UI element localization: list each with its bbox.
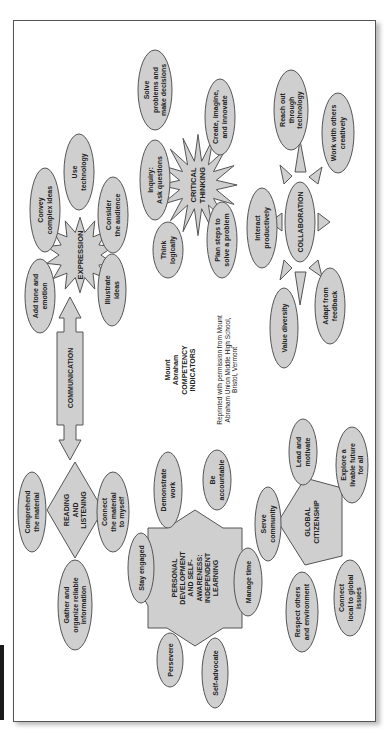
credit-text: Reprinted with permission from MountAbra… (216, 315, 238, 425)
node-think-logically: Thinklogically (153, 222, 183, 278)
node-solve-problems: Solveproblems andmake decisions (138, 50, 172, 130)
node-persevere: Persevere (157, 633, 183, 687)
node-gather-and-organize-label-line: Gather and (63, 587, 70, 624)
sun-ray-up-right (309, 167, 322, 184)
node-lead-and-motivate-label-line: Lead and (295, 437, 302, 468)
node-interact-productively: Interactproductively (247, 188, 277, 268)
sun-ray-down-left (280, 260, 292, 280)
collaboration-hub-label-line: COLLABORATION (297, 192, 304, 253)
critical-thinking-hub-label-line: THINKING (198, 167, 207, 203)
global-citizenship-hub-label-line: GLOBAL (304, 507, 311, 537)
node-connect-the-material-label-line: Connect (101, 497, 108, 526)
title-block-line: Abraham (172, 355, 179, 385)
node-convey-complex-ideas-label-line: Convey (37, 197, 45, 222)
node-create-imagine-innovate-label-line: and innovate (221, 95, 228, 138)
node-adapt-from-feedback-label-line: feedback (331, 291, 338, 321)
node-plan-steps-label-line: Plan steps to (214, 218, 222, 262)
node-interact-productively-label-line: productively (263, 207, 271, 249)
personal-development-hub-label-line: AND SELF- (187, 559, 194, 597)
node-connect-local-to-global-label-line: issues (355, 587, 362, 609)
node-lead-and-motivate: Lead andmotivate (289, 419, 317, 485)
node-serve-community-label-line: community (269, 505, 277, 542)
node-lead-and-motivate-label-line: motivate (304, 438, 311, 467)
node-add-tone-and-emotion: Add tone andemotion (25, 259, 55, 333)
diagram-canvas: COMMUNICATIONEXPRESSIONREADINGANDLISTENI… (0, 0, 389, 738)
node-illustrate-ideas-label-line: ideas (113, 281, 120, 299)
node-explore-livable-future: Explore alivable futurefor all (336, 427, 368, 503)
node-persevere-label: Persevere (167, 643, 174, 677)
node-work-with-others-creatively: Work with otherscreatively (322, 93, 354, 173)
node-illustrate-ideas: Illustrateideas (98, 254, 126, 326)
node-solve-problems-label-line: make decisions (160, 64, 167, 116)
node-create-imagine-innovate: Create, imagine,and innovate (205, 79, 235, 155)
node-manage-time-label-line: Manage time (245, 561, 253, 604)
node-manage-time: Manage time (234, 548, 262, 616)
node-connect-the-material: Connectthe materialto myself (97, 472, 129, 552)
node-value-diversity: Value diversity (270, 288, 298, 368)
node-reach-out-through-technology: Reach outthroughtechnology (274, 70, 308, 150)
node-use-technology: Usetechnology (64, 134, 94, 210)
node-gather-and-organize: Gather andorganize reliableinformation (58, 560, 92, 650)
node-consider-the-audience-label: Considerthe audience (105, 194, 120, 237)
node-serve-community-label-line: Serve (260, 514, 267, 533)
node-plan-steps-label: Plan steps tosolve a problem (214, 213, 230, 266)
communication-hub-label-line: COMMUNICATION (67, 348, 74, 409)
node-respect-others: Respect othersand environment (286, 572, 318, 652)
node-add-tone-and-emotion-label-line: emotion (41, 282, 48, 309)
expression-hub-label: EXPRESSION (76, 231, 85, 280)
node-connect-local-to-global: Connectlocal to globalissues (334, 560, 366, 636)
node-add-tone-and-emotion-label-line: Add tone and (32, 274, 39, 319)
communication-hub-label: COMMUNICATION (67, 348, 74, 409)
node-demonstrate-work-label-line: Demonstrate (160, 469, 167, 512)
node-stay-engaged: Stay engaged (128, 533, 154, 603)
node-demonstrate-work-label-line: work (169, 482, 176, 499)
node-plan-steps: Plan steps tosolve a problem (207, 202, 237, 278)
node-gather-and-organize-label-line: information (80, 586, 87, 625)
node-self-advocate-label: Self-advocate (212, 650, 219, 696)
node-lead-and-motivate-label: Lead andmotivate (295, 437, 310, 468)
node-work-with-others-creatively-label-line: Work with others (330, 105, 337, 162)
node-adapt-from-feedback-label-line: Adapt from (322, 287, 330, 324)
node-explore-livable-future-label-line: livable future (349, 443, 356, 487)
node-inquiry-ask-questions-label-line: Ask questions (156, 156, 164, 204)
node-consider-the-audience-label-line: the audience (114, 194, 121, 237)
node-inquiry-ask-questions-label-line: Inquiry: (147, 167, 155, 193)
expression-hub-label-line: EXPRESSION (76, 231, 85, 280)
node-solve-problems-label-line: problems and (152, 67, 160, 113)
personal-development-hub-label-line: PERSONAL (171, 558, 178, 598)
node-illustrate-ideas-label-line: Illustrate (104, 275, 111, 304)
node-create-imagine-innovate-label-line: Create, imagine, (212, 90, 220, 144)
node-use-technology-label-line: Use (71, 165, 78, 178)
node-comprehend-the-material-label-line: Comprehend (24, 490, 32, 533)
node-convey-complex-ideas: Conveycomplex ideas (30, 168, 60, 252)
node-comprehend-the-material-label: Comprehendthe material (24, 490, 39, 533)
sun-ray-right (318, 213, 330, 231)
reading-listening-hub-label-line: AND (72, 502, 79, 517)
node-explore-livable-future-label-line: for all (357, 455, 364, 474)
node-think-logically-label-line: Think (160, 241, 167, 260)
node-be-accountable-label-line: accountable (218, 459, 225, 500)
node-be-accountable: Beaccountable (203, 450, 231, 510)
node-comprehend-the-material: Comprehendthe material (18, 472, 46, 552)
global-citizenship-hub-label-line: CITIZENSHIP (313, 500, 320, 544)
node-reach-out-through-technology-label: Reach outthroughtechnology (279, 91, 303, 128)
reading-listening-hub-label-line: LISTENING (80, 491, 87, 529)
node-be-accountable-label-line: Be (209, 475, 216, 484)
node-use-technology-label-line: technology (80, 153, 88, 190)
collaboration-hub-label: COLLABORATION (297, 192, 304, 253)
node-consider-the-audience-label-line: Consider (105, 200, 112, 231)
personal-development-hub-label-line: INDEPENDENT (204, 552, 211, 603)
node-persevere-label-line: Persevere (167, 643, 174, 677)
node-connect-local-to-global-label-line: local to global (347, 574, 355, 621)
sun-ray-down (295, 272, 306, 305)
node-reach-out-through-technology-label-line: technology (296, 91, 304, 128)
node-explore-livable-future-label-line: Explore a (340, 449, 348, 481)
node-gather-and-organize-label-line: organize reliable (72, 577, 80, 632)
personal-development-hub-label-line: DEVELOPMENT (179, 551, 186, 605)
node-respect-others-label-line: and environment (303, 583, 310, 640)
node-connect-local-to-global-label-line: Connect (338, 583, 345, 612)
node-convey-complex-ideas-label-line: complex ideas (46, 186, 54, 234)
node-solve-problems-label-line: Solve (143, 81, 150, 100)
node-demonstrate-work: Demonstratework (154, 452, 182, 528)
title-block-line: INDICATORS (189, 348, 196, 391)
